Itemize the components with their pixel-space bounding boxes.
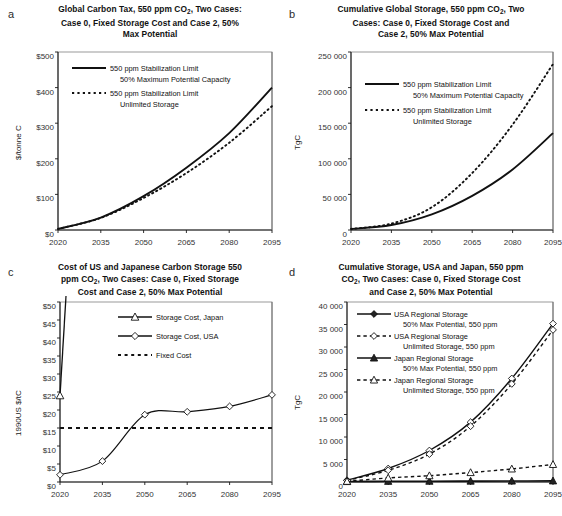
svg-text:550 ppm Stabilization Limit: 550 ppm Stabilization Limit <box>403 80 491 89</box>
x-tick-label: 2050 <box>423 238 441 247</box>
x-tick-label: 2065 <box>463 238 481 247</box>
x-tick-label: 2035 <box>379 490 397 499</box>
x-tick-label: 2020 <box>49 238 67 247</box>
panel-c-title: Cost of US and Japanese Carbon Storage 5… <box>26 262 274 299</box>
y-tick-label: $5 <box>47 464 56 473</box>
y-tick-label: 30 000 <box>319 347 343 356</box>
panel-b: b Cumulative Global Storage, 550 ppm CO2… <box>281 0 561 258</box>
x-tick-label: 2080 <box>221 490 239 499</box>
x-tick-label: 2065 <box>178 490 196 499</box>
y-tick-label: $35 <box>43 356 56 365</box>
x-tick-label: 2050 <box>135 238 153 247</box>
panel-d-label: d <box>289 266 295 278</box>
x-tick-label: 2095 <box>544 490 562 499</box>
panel-c-label: c <box>8 266 14 278</box>
x-tick-label: 2050 <box>136 490 154 499</box>
y-tick-label: 40 000 <box>319 302 343 311</box>
y-tick-label: $30 <box>43 374 56 383</box>
panel-d: d Cumulative Storage, USA and Japan, 550… <box>281 258 561 516</box>
panel-a-plot: $0$100$200$300$400$500 20202035205020652… <box>18 56 270 256</box>
y-tick-label: 10 000 <box>319 437 343 446</box>
y-tick-label: $300 <box>36 123 54 132</box>
panel-b-title: Cumulative Global Storage, 550 ppm CO2, … <box>307 4 555 41</box>
y-tick-label: 25 000 <box>319 369 343 378</box>
y-tick-label: 15 000 <box>319 414 343 423</box>
svg-text:USA Regional Storage: USA Regional Storage <box>394 332 468 341</box>
y-tick-label: $25 <box>43 392 56 401</box>
y-tick-label: $10 <box>43 446 56 455</box>
x-tick-label: 2020 <box>338 490 356 499</box>
panel-c-plot: $0$5$10$15$20$25$30$35$40$45$50 20202035… <box>18 306 270 516</box>
y-tick-label: $400 <box>36 87 54 96</box>
svg-text:50% Max Potential, 550 ppm: 50% Max Potential, 550 ppm <box>403 364 498 373</box>
y-tick-label: $15 <box>43 428 56 437</box>
y-tick-label: 250 000 <box>318 52 347 61</box>
panel-d-svg: USA Regional Storage50% Max Potential, 5… <box>347 302 553 486</box>
x-tick-label: 2020 <box>342 238 360 247</box>
panel-d-plot: 05 00010 00015 00020 00025 00030 00035 0… <box>299 306 551 516</box>
panel-d-title: Cumulative Storage, USA and Japan, 550 p… <box>307 262 555 299</box>
svg-text:50% Maximum Potential Capacity: 50% Maximum Potential Capacity <box>120 75 231 84</box>
y-tick-label: 35 000 <box>319 324 343 333</box>
svg-text:Storage Cost, Japan: Storage Cost, Japan <box>156 313 223 322</box>
svg-text:Japan Regional Storage: Japan Regional Storage <box>394 354 473 363</box>
svg-text:Unlimited Storage: Unlimited Storage <box>413 117 472 126</box>
svg-text:550 ppm Stabilization Limit: 550 ppm Stabilization Limit <box>110 89 198 98</box>
y-tick-label: $40 <box>43 338 56 347</box>
y-tick-label: 150 000 <box>318 123 347 132</box>
x-tick-label: 2035 <box>93 490 111 499</box>
y-tick-label: $200 <box>36 158 54 167</box>
panel-b-plot: 050 000100 000150 000200 000250 000 2020… <box>299 56 551 256</box>
y-tick-label: $100 <box>36 194 54 203</box>
x-tick-label: 2020 <box>51 490 69 499</box>
y-tick-label: 200 000 <box>318 87 347 96</box>
x-tick-label: 2095 <box>263 238 281 247</box>
y-tick-label: 20 000 <box>319 392 343 401</box>
panel-a-svg: 550 ppm Stabilization Limit50% Maximum P… <box>58 52 272 234</box>
panel-a-label: a <box>8 8 14 20</box>
panel-a-title: Global Carbon Tax, 550 ppm CO2, Two Case… <box>26 4 274 41</box>
x-tick-label: 2080 <box>503 490 521 499</box>
svg-text:50% Maximum Potential Capacity: 50% Maximum Potential Capacity <box>413 91 524 100</box>
y-tick-label: $50 <box>43 302 56 311</box>
svg-text:USA Regional Storage: USA Regional Storage <box>394 310 468 319</box>
y-tick-label: 5 000 <box>323 459 343 468</box>
panel-b-svg: 550 ppm Stabilization Limit50% Maximum P… <box>351 52 553 234</box>
x-tick-label: 2035 <box>92 238 110 247</box>
svg-text:Unlimited Storage, 550 ppm: Unlimited Storage, 550 ppm <box>403 386 495 395</box>
x-tick-label: 2035 <box>382 238 400 247</box>
panel-b-label: b <box>289 8 295 20</box>
y-tick-label: 50 000 <box>323 194 347 203</box>
panel-c: c Cost of US and Japanese Carbon Storage… <box>0 258 280 516</box>
svg-text:550 ppm Stabilization Limit: 550 ppm Stabilization Limit <box>110 64 198 73</box>
x-tick-label: 2095 <box>263 490 281 499</box>
x-tick-label: 2065 <box>177 238 195 247</box>
svg-text:Storage Cost, USA: Storage Cost, USA <box>156 332 219 341</box>
y-tick-label: $45 <box>43 320 56 329</box>
y-tick-label: 100 000 <box>318 158 347 167</box>
x-tick-label: 2065 <box>462 490 480 499</box>
panel-c-svg: Storage Cost, JapanStorage Cost, USAFixe… <box>60 302 272 486</box>
svg-text:Unlimited Storage: Unlimited Storage <box>120 100 179 109</box>
svg-text:550 ppm Stabilization Limit: 550 ppm Stabilization Limit <box>403 106 491 115</box>
x-tick-label: 2080 <box>220 238 238 247</box>
y-tick-label: $500 <box>36 52 54 61</box>
y-tick-label: $20 <box>43 410 56 419</box>
x-tick-label: 2050 <box>420 490 438 499</box>
x-tick-label: 2095 <box>544 238 562 247</box>
svg-text:Fixed Cost: Fixed Cost <box>156 351 191 360</box>
svg-text:Japan Regional Storage: Japan Regional Storage <box>394 376 473 385</box>
panel-a: a Global Carbon Tax, 550 ppm CO2, Two Ca… <box>0 0 280 258</box>
svg-text:50% Max Potential, 550 ppm: 50% Max Potential, 550 ppm <box>403 320 498 329</box>
svg-text:Unlimited Storage, 550 ppm: Unlimited Storage, 550 ppm <box>403 342 495 351</box>
x-tick-label: 2080 <box>504 238 522 247</box>
